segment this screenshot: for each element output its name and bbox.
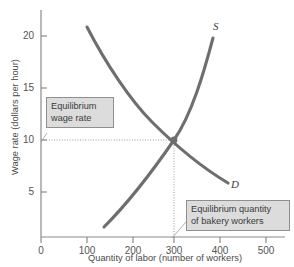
equilibrium-quantity-callout-line1: Equilibrium quantity: [191, 204, 285, 216]
y-axis-title: Wage rate (dollars per hour): [10, 58, 20, 176]
supply-curve: [104, 38, 213, 227]
supply-demand-chart: 20 15 10 5 0 100 200 300 400 500 Wage ra…: [0, 0, 294, 267]
wage-callout-leader-line: [41, 133, 47, 142]
equilibrium-quantity-callout-line2: of bakery workers: [191, 216, 285, 228]
x-tick-label-500: 500: [252, 245, 280, 256]
equilibrium-wage-callout: Equilibrium wage rate: [46, 97, 114, 128]
quantity-callout-leader-line: [172, 222, 186, 238]
equilibrium-point: [171, 137, 178, 144]
supply-curve-label: S: [213, 20, 219, 32]
equilibrium-quantity-callout: Equilibrium quantity of bakery workers: [186, 200, 290, 231]
x-axis-title: Quantity of labor (number of workers): [88, 253, 242, 263]
x-tick-label-0: 0: [31, 245, 51, 256]
equilibrium-wage-callout-line1: Equilibrium: [51, 101, 109, 113]
y-tick-label-5: 5: [12, 186, 34, 197]
y-tick-label-20: 20: [12, 30, 34, 41]
equilibrium-wage-callout-line2: wage rate: [51, 113, 109, 125]
demand-curve-label: D: [231, 178, 239, 190]
